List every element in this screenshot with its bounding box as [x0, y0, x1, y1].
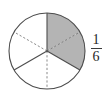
- fraction-numerator: 1: [86, 33, 106, 47]
- fraction-denominator: 6: [86, 50, 106, 64]
- fraction-label: 1 6: [86, 33, 106, 64]
